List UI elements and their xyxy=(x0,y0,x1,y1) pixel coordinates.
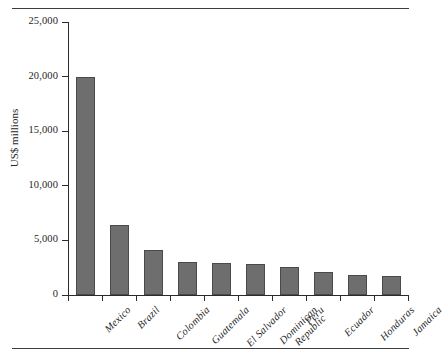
x-axis-tick xyxy=(306,295,307,301)
y-axis-tick-label: 10,000 xyxy=(2,180,58,191)
bar xyxy=(76,77,95,295)
x-axis-category-label: Mexico xyxy=(102,304,133,335)
figure-top-rule xyxy=(12,8,409,9)
x-axis-tick xyxy=(408,295,409,301)
y-axis-tick-label: 0 xyxy=(2,289,58,300)
bar xyxy=(314,272,333,295)
x-axis-tick xyxy=(272,295,273,301)
y-axis-line xyxy=(68,22,69,295)
x-axis-category-label: Honduras xyxy=(378,304,417,343)
y-axis-tick-label-wrap: 0 xyxy=(0,289,58,300)
y-axis-tick-label-wrap: 10,000 xyxy=(0,180,58,191)
y-axis-tick-label-wrap: 20,000 xyxy=(0,71,58,82)
bar xyxy=(178,262,197,295)
x-axis-category-label: Colombia xyxy=(174,304,213,343)
y-axis-tick xyxy=(62,22,68,23)
bar xyxy=(382,276,401,295)
bar xyxy=(212,263,231,295)
y-axis-tick xyxy=(62,185,68,186)
bar xyxy=(110,225,129,295)
x-axis-tick xyxy=(102,295,103,301)
y-axis-tick-label-wrap: 5,000 xyxy=(0,234,58,245)
bar xyxy=(144,250,163,295)
y-axis-tick-label: 20,000 xyxy=(2,71,58,82)
bar xyxy=(246,264,265,295)
x-axis-tick xyxy=(374,295,375,301)
x-axis-tick xyxy=(204,295,205,301)
y-axis-tick xyxy=(62,131,68,132)
bar xyxy=(280,267,299,295)
x-axis-tick xyxy=(136,295,137,301)
y-axis-tick-label: 5,000 xyxy=(2,234,58,245)
x-axis-tick xyxy=(340,295,341,301)
x-axis-category-label: Ecuador xyxy=(342,304,377,339)
x-axis-tick xyxy=(68,295,69,301)
x-axis-category-label: Brazil xyxy=(135,304,162,331)
y-axis-tick xyxy=(62,76,68,77)
figure-bottom-rule xyxy=(12,348,409,349)
x-axis-tick xyxy=(238,295,239,301)
y-axis-tick xyxy=(62,240,68,241)
y-axis-tick-label-wrap: 25,000 xyxy=(0,16,58,27)
x-axis-tick xyxy=(170,295,171,301)
y-axis-tick-label-wrap: 15,000 xyxy=(0,125,58,136)
y-axis-tick-label: 25,000 xyxy=(2,16,58,27)
bar xyxy=(348,275,367,295)
y-axis-tick-label: 15,000 xyxy=(2,125,58,136)
